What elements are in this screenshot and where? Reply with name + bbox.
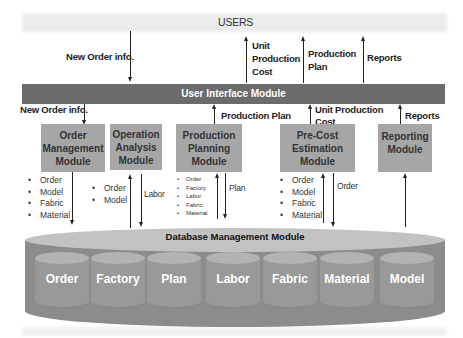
- database-management-module-title: Database Management Module: [25, 231, 445, 242]
- new-order-info-mid-label: New Order info.: [20, 104, 88, 115]
- db-table-order: Order: [35, 252, 89, 307]
- order-management-module: Order Management Module: [41, 124, 105, 172]
- production-plan-top-label-1: Production: [308, 48, 356, 59]
- db-table-model: Model: [380, 252, 434, 307]
- module-label-line: Module: [192, 155, 227, 168]
- operation-analysis-module: Operation Analysis Module: [110, 124, 162, 170]
- arrow-up-icon: [308, 104, 312, 109]
- arrow-up-icon: [321, 173, 325, 178]
- production-plan-top-label-2: Plan: [308, 61, 327, 72]
- pre-cost-down-arrow-line: [333, 173, 334, 223]
- db-table-fabric: Fabric: [263, 252, 317, 307]
- arrow-up-icon: [244, 36, 248, 41]
- arrow-up-icon: [361, 36, 365, 41]
- production-plan-top-arrow-line: [303, 40, 304, 83]
- module-label-line: Order: [59, 129, 86, 142]
- module-label-line: Management: [42, 142, 103, 155]
- unit-production-cost-top-label-3: Cost: [252, 66, 272, 77]
- new-order-info-top-label: New Order info.: [66, 51, 134, 62]
- db-table-label: Order: [35, 272, 89, 286]
- reporting-up-arrow-line: [405, 177, 406, 227]
- db-table-label: Fabric: [263, 272, 317, 286]
- list-item: Material: [28, 210, 70, 222]
- db-table-material: Material: [320, 252, 374, 307]
- arrow-up-icon: [301, 36, 305, 41]
- db-table-label: Factory: [91, 272, 145, 286]
- reports-mid-label: Reports: [405, 110, 440, 121]
- db-table-label: Labor: [206, 272, 260, 286]
- module-label-line: Planning: [188, 142, 230, 155]
- user-interface-module: User Interface Module: [22, 84, 445, 104]
- order-flow-label: Order: [337, 181, 358, 192]
- production-planning-down-arrow-line: [225, 173, 226, 215]
- reporting-module: Reporting Module: [378, 124, 432, 172]
- module-label-line: Module: [119, 154, 154, 167]
- arrow-down-icon: [70, 220, 74, 225]
- arrow-up-icon: [215, 173, 219, 178]
- arrow-up-icon: [398, 104, 402, 109]
- db-table-factory: Factory: [91, 252, 145, 307]
- unit-cost-arrow-line: [246, 40, 247, 83]
- labor-flow-label: Labor: [144, 189, 165, 200]
- arrow-up-icon: [212, 104, 216, 109]
- production-planning-data-list: Order Factory Labor Fabric Material: [177, 175, 207, 218]
- arrow-down-icon: [128, 77, 132, 82]
- unit-production-cost-top-label-2: Production: [252, 53, 300, 64]
- db-table-label: Material: [320, 272, 374, 286]
- new-order-mid-arrow-line: [84, 104, 85, 121]
- db-table-plan: Plan: [147, 252, 201, 307]
- list-item: Order: [177, 175, 207, 184]
- list-item: Material: [280, 210, 322, 222]
- order-management-db-arrow-line: [72, 172, 73, 222]
- order-management-data-list: Order Model Fabric Material: [28, 175, 70, 221]
- module-label-line: Module: [300, 155, 335, 168]
- reports-mid-arrow-line: [400, 108, 401, 124]
- module-label-line: Module: [56, 155, 91, 168]
- module-label-line: Reporting: [381, 130, 428, 143]
- list-item: Order: [280, 175, 322, 187]
- arrow-down-icon: [139, 222, 143, 227]
- module-label-line: Estimation: [292, 142, 343, 155]
- list-item: Fabric: [280, 198, 322, 210]
- module-label-line: Analysis: [115, 141, 156, 154]
- db-table-label: Model: [380, 272, 434, 286]
- production-plan-mid-label: Production Plan: [221, 110, 291, 121]
- list-item: Order: [92, 183, 127, 195]
- module-label-line: Module: [388, 143, 423, 156]
- users-label: USERS: [218, 17, 253, 28]
- module-label-line: Pre-Cost: [297, 129, 339, 142]
- arrow-up-icon: [128, 174, 132, 179]
- arrow-up-icon: [403, 173, 407, 178]
- list-item: Labor: [177, 192, 207, 201]
- db-table-label: Plan: [147, 272, 201, 286]
- arrow-down-icon: [223, 214, 227, 219]
- module-label-line: Production: [183, 129, 236, 142]
- list-item: Factory: [177, 184, 207, 193]
- db-table-labor: Labor: [206, 252, 260, 307]
- unit-production-cost-mid-label-1: Unit Production: [315, 104, 383, 115]
- operation-analysis-data-list: Order Model: [92, 183, 127, 206]
- pre-cost-data-list: Order Model Fabric Material: [280, 175, 322, 221]
- plan-flow-label: Plan: [229, 183, 245, 194]
- pre-cost-estimation-module: Pre-Cost Estimation Module: [280, 124, 355, 172]
- reports-top-label: Reports: [367, 52, 402, 63]
- production-plan-mid-arrow-line: [214, 108, 215, 124]
- list-item: Material: [177, 209, 207, 218]
- list-item: Model: [92, 195, 127, 207]
- unit-production-cost-top-label-1: Unit: [252, 40, 270, 51]
- unit-cost-mid-arrow-line: [310, 108, 311, 124]
- list-item: Order: [28, 175, 70, 187]
- list-item: Fabric: [28, 198, 70, 210]
- reports-top-arrow-line: [363, 40, 364, 83]
- list-item: Model: [28, 187, 70, 199]
- operation-analysis-up-arrow-line: [130, 178, 131, 228]
- list-item: Model: [280, 187, 322, 199]
- new-order-arrow-line: [130, 31, 131, 78]
- operation-analysis-down-arrow-line: [141, 174, 142, 223]
- module-label-line: Operation: [112, 128, 159, 141]
- background-text-band-bottom: [22, 327, 447, 336]
- production-planning-module: Production Planning Module: [176, 124, 242, 172]
- pre-cost-up-arrow-line: [323, 177, 324, 223]
- production-planning-up-arrow-line: [217, 177, 218, 219]
- arrow-down-icon: [331, 222, 335, 227]
